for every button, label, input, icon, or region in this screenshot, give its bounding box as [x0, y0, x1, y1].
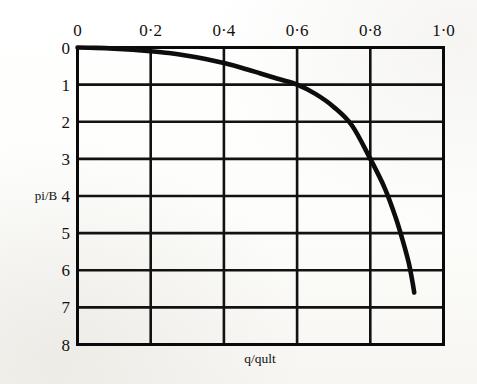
x-tick-label: 0·2 [139, 21, 162, 40]
x-tick-label: 0 [73, 21, 82, 40]
x-axis-tick-labels: 00·20·40·60·81·0 [73, 21, 455, 40]
y-tick-label: 2 [62, 113, 71, 132]
x-tick-label: 1·0 [432, 21, 455, 40]
y-tick-label: 1 [62, 76, 71, 95]
y-tick-label: 4 [62, 187, 71, 206]
y-tick-label: 5 [62, 224, 71, 243]
x-tick-label: 0·4 [213, 21, 236, 40]
y-tick-label: 0 [62, 39, 71, 58]
y-tick-label: 3 [62, 150, 71, 169]
x-axis-title: q/qult [244, 351, 276, 366]
y-axis-title: pi/B [35, 188, 58, 203]
figure-container: 00·20·40·60·81·0 012345678 q/qult pi/B [0, 0, 477, 384]
y-axis-tick-labels: 012345678 [62, 39, 71, 355]
chart-plot: 00·20·40·60·81·0 012345678 q/qult pi/B [0, 0, 477, 384]
y-tick-label: 8 [62, 336, 71, 355]
x-tick-label: 0·8 [359, 21, 382, 40]
y-tick-label: 7 [62, 298, 71, 317]
y-tick-label: 6 [62, 261, 71, 280]
x-tick-label: 0·6 [286, 21, 309, 40]
